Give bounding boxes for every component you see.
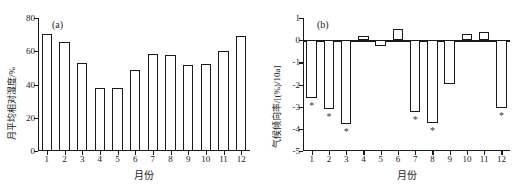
bar bbox=[148, 54, 159, 151]
x-tick-label: 9 bbox=[186, 155, 191, 164]
y-tick-label: 60 bbox=[26, 47, 35, 56]
x-tick-label: 6 bbox=[133, 155, 138, 164]
x-tick-label: 6 bbox=[396, 155, 401, 164]
bar bbox=[462, 34, 472, 41]
significance-marker: * bbox=[430, 126, 435, 136]
x-tick-label: 12 bbox=[237, 155, 246, 164]
panel-a-y-axis-title: 月平均相对湿度/% bbox=[8, 67, 17, 140]
panel-b-x-axis bbox=[303, 150, 510, 151]
panel-a: (a) 月平均相对湿度/% 020406080 123456789101112 … bbox=[0, 0, 265, 190]
x-tick-label: 11 bbox=[219, 155, 228, 164]
bar bbox=[393, 29, 403, 40]
y-tick-label: 0 bbox=[296, 36, 301, 45]
y-tick-label: -5 bbox=[293, 147, 301, 156]
bar bbox=[444, 40, 454, 84]
significance-marker: * bbox=[499, 111, 504, 121]
panel-b-y-axis-title: 气候倾向率/[(%)/10a] bbox=[273, 66, 282, 148]
panel-a-x-axis-title: 月份 bbox=[38, 171, 250, 181]
x-tick-label: 7 bbox=[151, 155, 156, 164]
x-tick-label: 11 bbox=[480, 155, 489, 164]
bar bbox=[201, 64, 212, 151]
bar bbox=[59, 42, 70, 151]
bar bbox=[341, 40, 351, 124]
figure-container: (a) 月平均相对湿度/% 020406080 123456789101112 … bbox=[0, 0, 530, 190]
bar bbox=[112, 88, 123, 151]
y-tick-label: 80 bbox=[26, 14, 35, 23]
significance-marker: * bbox=[326, 112, 331, 122]
bar bbox=[306, 40, 316, 98]
y-tick-label: -3 bbox=[293, 102, 301, 111]
panel-b-plot-area: 10-1-2-3-4-5 123456789101112 ****** bbox=[303, 18, 510, 151]
x-tick-label: 2 bbox=[327, 155, 332, 164]
bar bbox=[183, 65, 194, 151]
bar bbox=[496, 40, 506, 108]
panel-b: (b) 气候倾向率/[(%)/10a] 10-1-2-3-4-5 1234567… bbox=[265, 0, 530, 190]
bar bbox=[427, 40, 437, 123]
panel-b-zero-line bbox=[303, 40, 510, 41]
panel-a-y-axis bbox=[38, 18, 39, 151]
x-tick-label: 3 bbox=[80, 155, 85, 164]
bar bbox=[375, 40, 385, 46]
significance-marker: * bbox=[413, 115, 418, 125]
x-tick-label: 4 bbox=[98, 155, 103, 164]
y-tick-label: 0 bbox=[31, 147, 36, 156]
panel-b-y-axis bbox=[303, 18, 304, 151]
significance-marker: * bbox=[309, 101, 314, 111]
bar bbox=[165, 55, 176, 151]
bar bbox=[95, 88, 106, 151]
bar bbox=[410, 40, 420, 112]
bar bbox=[479, 32, 489, 40]
x-tick-label: 8 bbox=[168, 155, 173, 164]
x-tick-label: 5 bbox=[115, 155, 120, 164]
x-tick-label: 2 bbox=[62, 155, 67, 164]
y-tick-label: -1 bbox=[293, 58, 301, 67]
bar bbox=[42, 34, 53, 151]
x-tick-label: 1 bbox=[45, 155, 50, 164]
significance-marker: * bbox=[344, 127, 349, 137]
x-tick-label: 5 bbox=[378, 155, 383, 164]
bar bbox=[218, 51, 229, 151]
x-tick-label: 7 bbox=[413, 155, 418, 164]
bar bbox=[236, 36, 247, 151]
x-tick-label: 12 bbox=[497, 155, 506, 164]
y-tick-label: -4 bbox=[293, 124, 301, 133]
y-tick-label: 1 bbox=[296, 14, 301, 23]
bar bbox=[77, 63, 88, 151]
x-tick-label: 10 bbox=[462, 155, 471, 164]
x-tick-label: 3 bbox=[344, 155, 349, 164]
panel-b-x-axis-title: 月份 bbox=[303, 171, 510, 181]
bar bbox=[358, 36, 368, 40]
x-tick-label: 10 bbox=[201, 155, 210, 164]
x-tick-label: 4 bbox=[361, 155, 366, 164]
x-tick-label: 1 bbox=[309, 155, 314, 164]
bar bbox=[324, 40, 334, 109]
x-tick-label: 8 bbox=[430, 155, 435, 164]
y-tick-label: -2 bbox=[293, 80, 301, 89]
y-tick-label: 20 bbox=[26, 113, 35, 122]
y-tick-label: 40 bbox=[26, 80, 35, 89]
x-tick-label: 9 bbox=[447, 155, 452, 164]
panel-a-plot-area: 020406080 123456789101112 bbox=[38, 18, 250, 151]
bar bbox=[130, 70, 141, 151]
